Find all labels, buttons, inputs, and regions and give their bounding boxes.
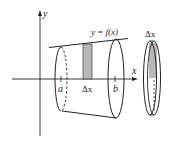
strip-delta-x-label: Δx — [82, 84, 93, 94]
y-axis-label: y — [42, 8, 48, 19]
x-axis: x — [12, 65, 138, 81]
disk-delta-x-label: Δx — [145, 29, 156, 39]
representative-strip — [83, 44, 92, 79]
x-axis-label: x — [131, 65, 137, 76]
curve-label: y = f(x) — [90, 27, 118, 37]
disk: Δx — [144, 29, 161, 115]
solid-of-revolution-diagram: y x y = f(x) a Δx b — [0, 0, 170, 142]
b-label: b — [113, 83, 118, 94]
a-label: a — [58, 83, 63, 94]
mirror-line — [62, 111, 116, 118]
right-end-ellipse — [108, 39, 124, 118]
y-axis: y — [38, 8, 48, 136]
